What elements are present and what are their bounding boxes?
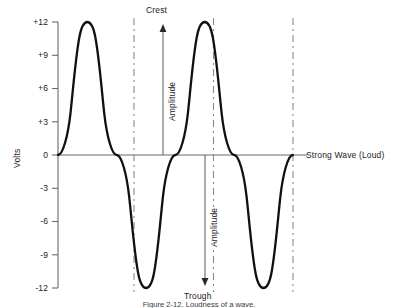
y-tick-label-9: +9 <box>22 50 48 60</box>
figure-caption: Figure 2-12. Loudness of a wave. <box>0 300 398 308</box>
wave-type-label: Strong Wave (Loud) <box>306 150 384 160</box>
y-tick-label-neg6: -6 <box>22 216 48 226</box>
y-axis-title: Volts <box>12 149 22 168</box>
y-tick-label-neg3: -3 <box>22 183 48 193</box>
y-tick-label-neg12: -12 <box>22 283 48 293</box>
y-tick-label-12: +12 <box>22 17 48 27</box>
y-tick-label-0: 0 <box>22 150 48 160</box>
crest-label: Crest <box>146 5 167 15</box>
y-tick-label-neg9: -9 <box>22 250 48 260</box>
amplitude-label-upper: Amplitude <box>167 81 177 122</box>
y-tick-label-3: +3 <box>22 117 48 127</box>
amplitude-label-lower: Amplitude <box>209 207 219 248</box>
amplitude-arrow-upper <box>160 24 167 155</box>
amplitude-arrow-lower <box>202 155 209 286</box>
y-tick-label-6: +6 <box>22 83 48 93</box>
wave-figure: +12 +9 +6 +3 0 -3 -6 -9 -12 Volts Crest … <box>0 0 398 308</box>
